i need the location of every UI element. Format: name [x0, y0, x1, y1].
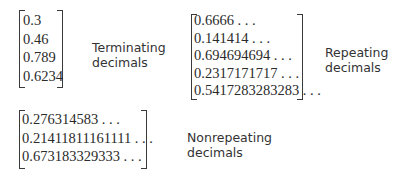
repeating-values-list: 0.6666 . . . 0.141414 . . . 0.694694694 … — [194, 12, 321, 100]
terminating-value: 0.789 — [23, 48, 63, 67]
terminating-label-line2: decimals — [92, 55, 166, 70]
nonrepeating-value: 0.673183329333 . . . — [22, 147, 153, 166]
nonrepeating-value: 0.276314583 . . . — [22, 110, 153, 129]
terminating-label-line1: Terminating — [92, 40, 166, 55]
nonrepeating-label: Nonrepeating decimals — [187, 130, 272, 160]
terminating-value: 0.3 — [23, 11, 63, 30]
repeating-value: 0.2317171717 . . . — [194, 65, 321, 83]
repeating-label-line2: decimals — [325, 60, 388, 75]
repeating-value: 0.6666 . . . — [194, 12, 321, 30]
terminating-values-list: 0.3 0.46 0.789 0.6234 — [23, 11, 63, 85]
terminating-label: Terminating decimals — [92, 40, 166, 70]
repeating-decimals-group: 0.6666 . . . 0.141414 . . . 0.694694694 … — [185, 0, 395, 110]
nonrepeating-label-line1: Nonrepeating — [187, 130, 272, 145]
nonrepeating-value: 0.21411811161111 . . . — [22, 129, 153, 148]
repeating-value: 0.5417283283283 . . . — [194, 82, 321, 100]
terminating-value: 0.46 — [23, 30, 63, 49]
nonrepeating-values-list: 0.276314583 . . . 0.21411811161111 . . .… — [22, 110, 153, 166]
repeating-value: 0.694694694 . . . — [194, 47, 321, 65]
repeating-value: 0.141414 . . . — [194, 30, 321, 48]
terminating-value: 0.6234 — [23, 67, 63, 86]
nonrepeating-decimals-group: 0.276314583 . . . 0.21411811161111 . . .… — [0, 105, 260, 180]
terminating-decimals-group: 0.3 0.46 0.789 0.6234 Terminating decima… — [0, 0, 190, 100]
nonrepeating-label-line2: decimals — [187, 145, 272, 160]
repeating-label-line1: Repeating — [325, 45, 388, 60]
repeating-label: Repeating decimals — [325, 45, 388, 75]
